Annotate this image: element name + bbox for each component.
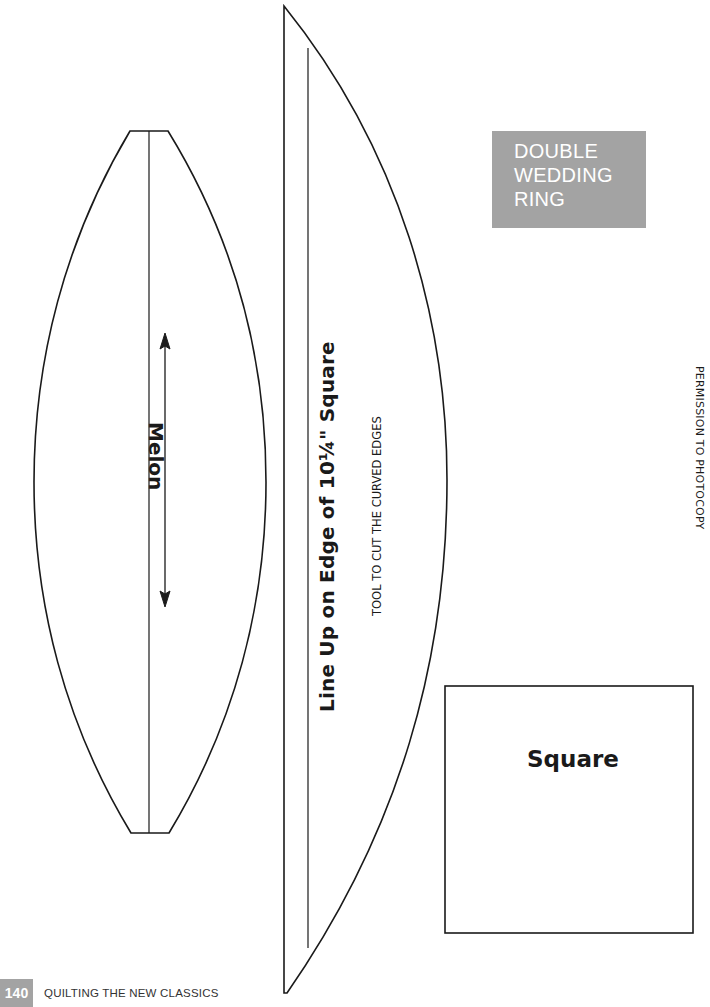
book-title: QUILTING THE NEW CLASSICS — [44, 987, 219, 999]
cutting-tool-template — [284, 6, 447, 993]
square-template — [445, 686, 693, 933]
cutting-tool-label: Line Up on Edge of 10¼" Square — [315, 341, 339, 712]
title-line-1: DOUBLE — [514, 139, 646, 163]
melon-label: Melon — [144, 422, 168, 490]
title-line-2: WEDDING — [514, 163, 646, 187]
square-label: Square — [527, 746, 619, 772]
pattern-title-box: DOUBLE WEDDING RING — [492, 131, 646, 228]
permission-note: PERMISSION TO PHOTOCOPY — [693, 366, 706, 529]
page-number: 140 — [0, 979, 33, 1007]
title-line-3: RING — [514, 187, 646, 211]
cutting-tool-sublabel: TOOL TO CUT THE CURVED EDGES — [370, 416, 384, 616]
